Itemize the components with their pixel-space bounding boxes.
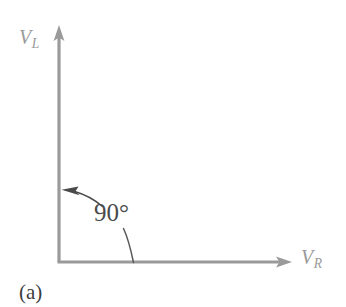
vertical-axis-group [54,25,65,262]
angle-annotation-label: 90° [94,200,129,225]
angle-arc-lower-segment [124,229,134,263]
horizontal-axis-group [58,257,293,268]
horizontal-axis-subscript: R [314,256,322,271]
panel-caption: (a) [19,282,42,303]
horizontal-axis-label: VR [301,247,322,270]
phasor-diagram-figure: VL VR 90° (a) [0,0,346,307]
vertical-axis-label: VL [19,27,39,50]
horizontal-axis-symbol: V [301,246,313,268]
phasor-diagram-canvas [0,0,346,307]
vertical-axis-subscript: L [32,36,40,51]
vertical-axis-symbol: V [19,26,31,48]
angle-arc-arrowhead [62,186,80,195]
